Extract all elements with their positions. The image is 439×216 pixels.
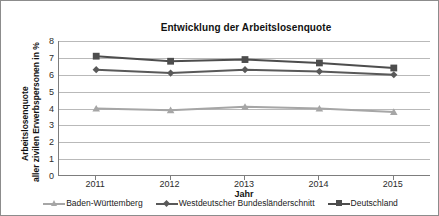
legend-label: Westdeutscher Bundesländerschnitt bbox=[179, 199, 315, 208]
legend-label: Baden-Württemberg bbox=[66, 199, 143, 208]
x-axis-tick-label: 2011 bbox=[65, 179, 125, 189]
chart-title: Entwicklung der Arbeitslosenquote bbox=[61, 22, 431, 33]
y-axis-tick-label: 8 bbox=[28, 36, 54, 46]
x-axis-tick bbox=[244, 176, 245, 180]
x-axis-tick-label: 2013 bbox=[214, 179, 274, 189]
data-point bbox=[93, 66, 100, 73]
chart-legend: Baden-WürttembergWestdeutscher Bundeslän… bbox=[1, 199, 439, 208]
y-axis-tick-label: 0 bbox=[28, 171, 54, 181]
legend-label: Deutschland bbox=[351, 199, 398, 208]
legend-item-westdeutscher-bundesl-nderschnitt[interactable]: Westdeutscher Bundesländerschnitt bbox=[156, 199, 315, 208]
x-axis-tick bbox=[170, 176, 171, 180]
y-axis-tick-label: 1 bbox=[28, 154, 54, 164]
y-axis-tick-label: 3 bbox=[28, 120, 54, 130]
data-point bbox=[93, 53, 100, 60]
series-layer bbox=[59, 41, 431, 176]
x-axis-tick bbox=[318, 176, 319, 180]
x-axis-tick-label: 2015 bbox=[363, 179, 423, 189]
x-axis-tick bbox=[393, 176, 394, 180]
chart-container: Entwicklung der Arbeitslosenquote Arbeit… bbox=[0, 0, 439, 216]
x-axis-tick-label: 2014 bbox=[288, 179, 348, 189]
y-axis-tick-label: 4 bbox=[28, 104, 54, 114]
x-axis-tick-label: 2012 bbox=[140, 179, 200, 189]
data-point bbox=[316, 60, 323, 67]
data-point bbox=[242, 56, 249, 63]
y-axis-tick-label: 2 bbox=[28, 137, 54, 147]
legend-swatch-square-icon bbox=[328, 199, 350, 208]
y-axis-tick-label: 6 bbox=[28, 70, 54, 80]
y-axis-tick-label: 5 bbox=[28, 87, 54, 97]
legend-swatch-triangle-icon bbox=[43, 199, 65, 208]
plot-area bbox=[58, 41, 430, 176]
data-point bbox=[241, 66, 248, 73]
legend-item-deutschland[interactable]: Deutschland bbox=[328, 199, 398, 208]
y-axis-tick-label: 7 bbox=[28, 53, 54, 63]
legend-item-baden-w-rttemberg[interactable]: Baden-Württemberg bbox=[43, 199, 143, 208]
series-baden-w-rttemberg bbox=[92, 103, 397, 115]
legend-swatch-diamond-icon bbox=[156, 199, 178, 208]
data-point bbox=[167, 58, 174, 65]
data-point bbox=[167, 69, 174, 76]
data-point bbox=[390, 65, 397, 72]
data-point bbox=[316, 68, 323, 75]
x-axis-tick bbox=[95, 176, 96, 180]
series-westdeutscher-bundesl-nderschnitt bbox=[93, 66, 398, 78]
data-point bbox=[390, 71, 397, 78]
